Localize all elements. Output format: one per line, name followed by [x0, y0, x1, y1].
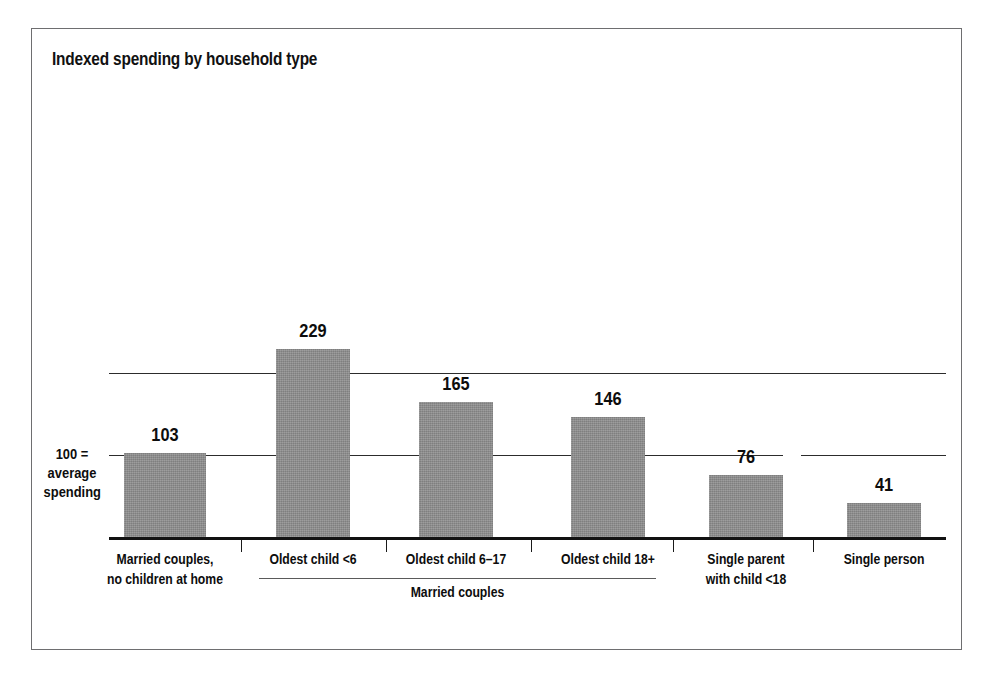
bar-married-no-children[interactable] — [124, 453, 206, 537]
y-axis-note-line3: spending — [44, 482, 101, 501]
bar-single-person[interactable] — [847, 503, 921, 537]
gridline-100-right-segment — [801, 455, 946, 456]
category-tick — [531, 540, 532, 552]
category-label-line1: Oldest child <6 — [242, 549, 383, 569]
category-label-line1: Single parent — [675, 549, 816, 569]
category-label-oldest-child-under-6: Oldest child <6 — [242, 549, 383, 569]
x-axis-baseline — [109, 537, 946, 540]
category-label-line1: Single person — [813, 549, 954, 569]
category-label-line2: with child <18 — [675, 569, 816, 589]
bar-oldest-child-6-17[interactable] — [419, 402, 493, 537]
category-label-line2: no children at home — [91, 569, 239, 589]
bar-oldest-child-under-6[interactable] — [276, 349, 350, 537]
category-label-line1: Oldest child 18+ — [537, 549, 678, 569]
y-axis-note-line1: 100 = — [44, 444, 101, 463]
plot-area: 100 = average spending 103 229 165 146 7… — [32, 29, 961, 649]
bar-value-label: 229 — [255, 320, 370, 342]
bar-oldest-child-18-plus[interactable] — [571, 417, 645, 537]
category-label-line1: Married couples, — [91, 549, 239, 569]
category-label-married-no-children: Married couples, no children at home — [91, 549, 239, 589]
bar-value-label: 146 — [550, 388, 665, 410]
bar-value-label: 41 — [826, 474, 941, 496]
gridline-200 — [109, 373, 946, 374]
category-label-single-parent: Single parent with child <18 — [675, 549, 816, 589]
category-label-single-person: Single person — [813, 549, 954, 569]
bar-value-label: 165 — [398, 373, 513, 395]
bar-value-label: 103 — [104, 424, 226, 446]
y-axis-average-note: 100 = average spending — [44, 444, 101, 501]
group-bracket-line — [259, 578, 656, 579]
group-bracket-label: Married couples — [287, 584, 628, 600]
category-label-oldest-child-6-17: Oldest child 6–17 — [385, 549, 526, 569]
y-axis-note-line2: average — [44, 463, 101, 482]
category-label-oldest-child-18-plus: Oldest child 18+ — [537, 549, 678, 569]
bar-value-label: 76 — [688, 446, 803, 468]
bar-single-parent-child-under-18[interactable] — [709, 475, 783, 537]
chart-frame: Indexed spending by household type 100 =… — [31, 28, 962, 650]
category-label-line1: Oldest child 6–17 — [385, 549, 526, 569]
